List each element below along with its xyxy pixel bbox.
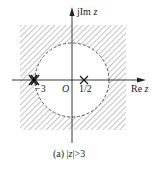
real-axis-label: Re z	[131, 84, 149, 94]
figure-caption: (a) |z|>3	[53, 149, 85, 159]
roc-shaded-region	[20, 25, 126, 130]
imag-axis-label: jIm z	[77, 7, 97, 17]
arrow-up-icon	[70, 7, 75, 16]
arrow-right-icon	[137, 78, 146, 83]
pole-label-half: 1/2	[79, 84, 92, 94]
pole-label-minus3: −3	[35, 84, 46, 94]
origin-label: O	[62, 84, 69, 94]
